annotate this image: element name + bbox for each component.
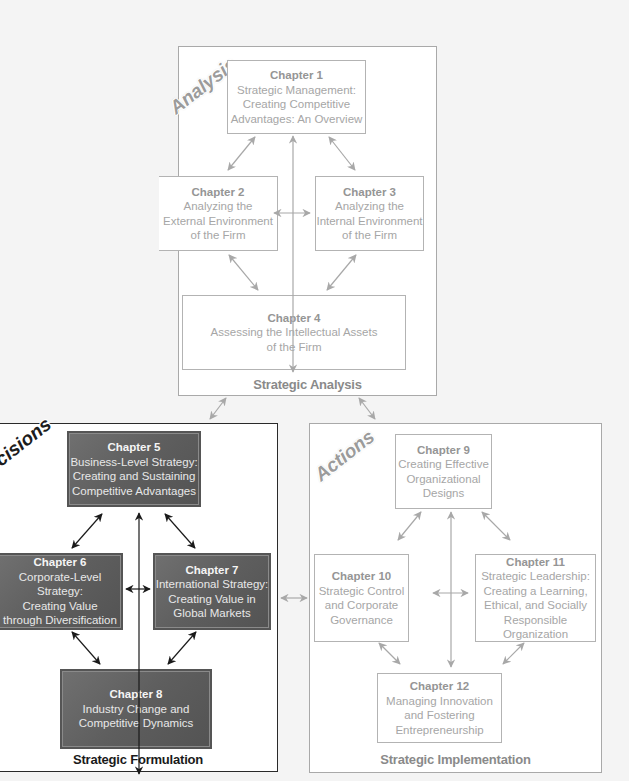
actions-footer: Strategic Implementation (310, 752, 601, 767)
chapter-7-title-line: Global Markets (173, 606, 250, 621)
decisions-footer: Strategic Formulation (0, 752, 277, 767)
chapter-7-box: Chapter 7 International Strategy: Creati… (153, 553, 271, 630)
analysis-panel: Analysis Chapter 1 Strategic Management:… (178, 46, 437, 396)
chapter-10-title-line: Strategic Control (319, 584, 405, 599)
chapter-12-title-line: Managing Innovation (386, 694, 493, 709)
chapter-6-number: Chapter 6 (33, 555, 86, 570)
actions-panel: Actions Chapter 9 Creating Effective Org… (309, 423, 602, 773)
chapter-1-box: Chapter 1 Strategic Management: Creating… (227, 60, 366, 134)
chapter-6-box: Chapter 6 Corporate-Level Strategy: Crea… (0, 553, 123, 630)
chapter-11-title-line: Responsible (504, 613, 567, 628)
chapter-4-number: Chapter 4 (267, 311, 320, 326)
decisions-stage-label: Decisions (0, 413, 56, 486)
chapter-9-number: Chapter 9 (417, 443, 470, 458)
chapter-5-box: Chapter 5 Business-Level Strategy: Creat… (67, 431, 201, 507)
chapter-6-title-line: Creating Value (22, 599, 97, 614)
chapter-7-number: Chapter 7 (185, 563, 238, 578)
chapter-6-title-line: Corporate-Level Strategy: (0, 570, 121, 599)
chapter-12-title-line: Entrepreneurship (395, 723, 483, 738)
chapter-8-box: Chapter 8 Industry Change and Competitiv… (60, 669, 212, 749)
chapter-9-title-line: Creating Effective (398, 457, 489, 472)
chapter-5-title-line: Business-Level Strategy: (70, 455, 197, 470)
chapter-12-box: Chapter 12 Managing Innovation and Foste… (377, 673, 502, 743)
chapter-4-title-line: Assessing the Intellectual Assets (211, 325, 378, 340)
chapter-10-box: Chapter 10 Strategic Control and Corpora… (314, 554, 409, 642)
chapter-12-title-line: and Fostering (404, 708, 474, 723)
chapter-3-title-line: of the Firm (342, 228, 397, 243)
chapter-4-box: Chapter 4 Assessing the Intellectual Ass… (182, 295, 406, 370)
chapter-11-title-line: Ethical, and Socially (484, 598, 587, 613)
actions-stage-label: Actions (310, 426, 378, 486)
chapter-9-title-line: Organizational (406, 472, 480, 487)
chapter-3-box: Chapter 3 Analyzing the Internal Environ… (315, 176, 424, 251)
chapter-7-title-line: Creating Value in (168, 592, 255, 607)
chapter-6-title-line: through Diversification (3, 613, 117, 628)
chapter-8-title-line: Industry Change and (83, 702, 190, 717)
chapter-10-title-line: Governance (330, 613, 393, 628)
chapter-8-number: Chapter 8 (109, 687, 162, 702)
chapter-7-title-line: International Strategy: (156, 577, 269, 592)
chapter-2-number: Chapter 2 (191, 185, 244, 200)
chapter-2-title-line: External Environment (163, 214, 273, 229)
decisions-panel: Decisions Chapter 5 Business-Level Strat… (0, 423, 278, 772)
analysis-footer: Strategic Analysis (179, 377, 436, 392)
chapter-8-title-line: Competitive Dynamics (79, 716, 193, 731)
chapter-1-title-line: Creating Competitive (243, 97, 350, 112)
chapter-3-number: Chapter 3 (343, 185, 396, 200)
chapter-2-box: Chapter 2 Analyzing the External Environ… (159, 176, 278, 251)
chapter-11-number: Chapter 11 (506, 555, 565, 570)
chapter-2-title-line: Analyzing the (183, 199, 252, 214)
chapter-5-number: Chapter 5 (107, 440, 160, 455)
chapter-1-title-line: Advantages: An Overview (231, 112, 363, 127)
chapter-2-title-line: of the Firm (191, 228, 246, 243)
chapter-11-title-line: Organization (503, 627, 568, 642)
chapter-12-number: Chapter 12 (410, 679, 469, 694)
chapter-1-title-line: Strategic Management: (237, 83, 356, 98)
chapter-3-title-line: Internal Environment (316, 214, 422, 229)
chapter-11-title-line: Creating a Learning, (483, 584, 587, 599)
chapter-10-number: Chapter 10 (332, 569, 391, 584)
chapter-5-title-line: Creating and Sustaining (73, 469, 196, 484)
chapter-3-title-line: Analyzing the (335, 199, 404, 214)
chapter-10-title-line: and Corporate (325, 598, 399, 613)
chapter-4-title-line: of the Firm (267, 340, 322, 355)
chapter-9-box: Chapter 9 Creating Effective Organizatio… (395, 434, 492, 509)
chapter-11-box: Chapter 11 Strategic Leadership: Creatin… (475, 554, 596, 642)
chapter-9-title-line: Designs (423, 486, 465, 501)
chapter-1-number: Chapter 1 (270, 68, 323, 83)
chapter-5-title-line: Competitive Advantages (72, 484, 196, 499)
chapter-11-title-line: Strategic Leadership: (481, 569, 590, 584)
